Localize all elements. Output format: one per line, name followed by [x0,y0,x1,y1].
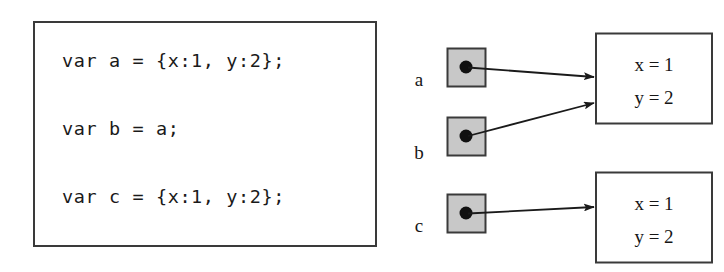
object-box-2-property-x: x = 1 [634,193,673,214]
object-box-2-property-y: y = 2 [634,226,673,247]
object-box-1-frame [596,34,712,124]
variable-b-label: b [414,142,424,163]
variable-a-label: a [415,69,424,90]
reference-arrow-b-to-object-1 [468,103,594,136]
reference-arrow-a-to-object-1 [468,68,594,78]
object-box-1-property-x: x = 1 [634,54,673,75]
diagram-page: var a = {x:1, y:2}; var b = a; var c = {… [0,0,724,272]
variable-c: c [415,195,486,237]
object-box-1: x = 1 y = 2 [596,34,712,124]
diagram-canvas: a b c x = 1 y = 2 [0,0,724,272]
reference-arrow-c-to-object-2 [468,207,594,214]
variable-a: a [415,49,486,91]
reference-diagram: a b c x = 1 y = 2 [0,0,724,272]
object-box-2: x = 1 y = 2 [596,173,712,263]
variable-b: b [414,118,485,164]
object-box-1-property-y: y = 2 [634,87,673,108]
variable-c-label: c [415,215,423,236]
object-box-2-frame [596,173,712,263]
